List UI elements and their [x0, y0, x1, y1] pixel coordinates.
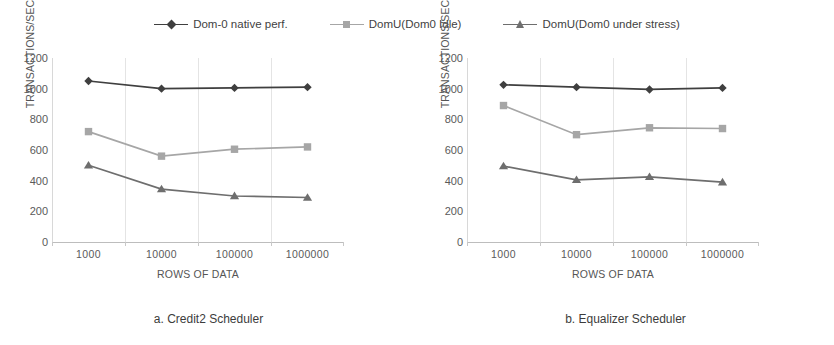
x-axis-tick-label: 1000000 [286, 248, 330, 260]
series-line [504, 85, 723, 90]
triangle-marker-icon [499, 162, 508, 170]
y-axis-tick-labels: 020040060080010001200 [12, 58, 48, 242]
y-axis-tick-label: 1000 [24, 83, 48, 95]
diamond-marker-icon [499, 81, 507, 89]
x-axis-tick-labels: 1000100001000001000000 [467, 248, 759, 264]
x-axis-tick-label: 1000 [491, 248, 516, 260]
x-axis-tick [467, 242, 468, 246]
x-axis-tick [52, 242, 53, 246]
plot-area-wrapper: 020040060080010001200 100010000100000100… [467, 58, 807, 260]
diamond-marker-icon [84, 77, 92, 85]
x-axis-tick [758, 242, 759, 246]
y-axis-tick-label: 600 [30, 144, 48, 156]
square-marker-icon [719, 125, 726, 132]
square-marker-icon [646, 124, 653, 131]
chart-legend: Dom-0 native perf.DomU(Dom0 Idle)DomU(Do… [0, 18, 834, 30]
y-axis-tick-label: 400 [445, 175, 463, 187]
series-layer [467, 58, 759, 242]
diamond-marker-icon [166, 19, 176, 29]
x-axis-tick-label: 1000000 [701, 248, 745, 260]
x-axis-tick-labels: 1000100001000001000000 [52, 248, 344, 264]
x-axis-title: ROWS OF DATA [52, 268, 344, 280]
x-axis-tick-label: 1000 [76, 248, 101, 260]
series-line [89, 81, 308, 89]
figure-two-panel-line-charts: Dom-0 native perf.DomU(Dom0 Idle)DomU(Do… [0, 0, 834, 345]
series-3 [499, 162, 727, 186]
plot-area [467, 58, 759, 242]
x-axis-tick [613, 242, 614, 246]
chart-panel-credit2: TRANSACTIONS/SEC 020040060080010001200 1… [0, 46, 417, 345]
x-axis-tick-label: 100000 [631, 248, 668, 260]
series-2 [85, 128, 311, 160]
legend-key [154, 18, 188, 30]
x-axis-tick-label: 10000 [146, 248, 177, 260]
square-marker-icon [85, 128, 92, 135]
square-marker-icon [304, 143, 311, 150]
square-marker-icon [343, 21, 350, 28]
y-axis-tick-label: 600 [445, 144, 463, 156]
diamond-marker-icon [645, 85, 653, 93]
square-marker-icon [573, 131, 580, 138]
x-axis-title: ROWS OF DATA [467, 268, 759, 280]
square-marker-icon [500, 102, 507, 109]
diamond-marker-icon [303, 83, 311, 91]
series-1 [499, 81, 726, 94]
panel-caption: a. Credit2 Scheduler [0, 312, 417, 326]
square-marker-icon [158, 152, 165, 159]
plot-area-wrapper: 020040060080010001200 100010000100000100… [52, 58, 392, 260]
y-axis-tick-label: 1000 [439, 83, 463, 95]
y-axis-tick-label: 0 [42, 236, 48, 248]
x-axis-tick [125, 242, 126, 246]
y-axis-tick-label: 200 [445, 205, 463, 217]
x-axis-tick [271, 242, 272, 246]
diamond-marker-icon [157, 84, 165, 92]
x-axis-tick [198, 242, 199, 246]
diamond-marker-icon [230, 84, 238, 92]
panel-caption: b. Equalizer Scheduler [417, 312, 834, 326]
y-axis-tick-label: 800 [30, 113, 48, 125]
legend-entry: Dom-0 native perf. [154, 18, 288, 30]
x-axis-tick-label: 10000 [561, 248, 592, 260]
y-axis-tick-label: 1200 [439, 52, 463, 64]
triangle-marker-icon [516, 20, 524, 28]
legend-key [503, 18, 537, 30]
square-marker-icon [231, 146, 238, 153]
x-axis-tick [686, 242, 687, 246]
x-axis-tick [540, 242, 541, 246]
series-line [504, 166, 723, 182]
series-line [504, 106, 723, 135]
y-axis-tick-label: 800 [445, 113, 463, 125]
y-axis-tick-label: 1200 [24, 52, 48, 64]
y-axis-tick-label: 400 [30, 175, 48, 187]
y-axis-tick-label: 200 [30, 205, 48, 217]
chart-panel-equalizer: TRANSACTIONS/SEC 020040060080010001200 1… [417, 46, 834, 345]
y-axis-tick-label: 0 [457, 236, 463, 248]
legend-key [330, 18, 364, 30]
plot-area [52, 58, 344, 242]
diamond-marker-icon [572, 83, 580, 91]
legend-entry: DomU(Dom0 under stress) [503, 18, 679, 30]
series-layer [52, 58, 344, 242]
series-1 [84, 77, 311, 93]
series-line [89, 132, 308, 157]
series-3 [84, 161, 312, 201]
series-line [89, 165, 308, 197]
legend-label: DomU(Dom0 under stress) [542, 18, 679, 30]
x-axis-tick [343, 242, 344, 246]
triangle-marker-icon [84, 161, 93, 169]
series-2 [500, 102, 726, 139]
x-axis-tick-label: 100000 [216, 248, 253, 260]
y-axis-tick-labels: 020040060080010001200 [427, 58, 463, 242]
diamond-marker-icon [718, 84, 726, 92]
legend-label: Dom-0 native perf. [193, 18, 288, 30]
